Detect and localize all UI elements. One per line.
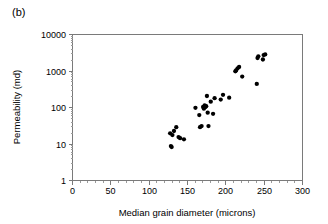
axis-tick-labels: 110100100010000050100150200250300 [41,30,310,196]
data-point [256,54,260,58]
y-tick-label: 10 [56,140,66,150]
data-point [212,96,216,100]
x-axis-title: Median grain diameter (microns) [119,207,256,218]
figure-panel: (b) 110100100010000050100150200250300 Me… [0,0,328,224]
data-point [178,136,182,140]
x-tick-label: 150 [180,186,195,196]
data-point [199,124,203,128]
axis-ticks [69,35,303,185]
data-point [197,113,201,117]
data-point [172,129,176,133]
data-point [174,125,178,129]
x-tick-label: 50 [105,186,115,196]
data-point [221,93,225,97]
data-point [205,94,209,98]
data-point [227,96,231,100]
y-tick-label: 1000 [46,67,66,77]
x-tick-label: 200 [218,186,233,196]
data-point [204,104,208,108]
data-point [263,52,267,56]
y-tick-label: 1 [61,176,66,186]
data-point [261,57,265,61]
data-point [206,124,210,128]
y-tick-label: 10000 [41,30,66,40]
y-axis-title: Permeability (md) [11,70,22,144]
data-point [237,65,241,69]
scatter-plot: 110100100010000050100150200250300 Median… [0,0,328,224]
data-point [182,137,186,141]
data-point [211,112,215,116]
y-tick-label: 100 [51,103,66,113]
x-tick-label: 300 [295,186,310,196]
x-tick-label: 0 [70,186,75,196]
x-tick-label: 250 [257,186,272,196]
data-point [209,100,213,104]
data-points [168,52,267,149]
data-point [206,111,210,115]
data-point [219,97,223,101]
data-point [255,82,259,86]
data-point [240,74,244,78]
data-point [193,106,197,110]
x-tick-label: 100 [142,186,157,196]
data-point [170,133,174,137]
data-point [170,145,174,149]
plot-axes [73,35,303,181]
